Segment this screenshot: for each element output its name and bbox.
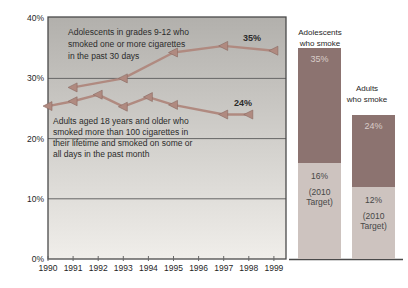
- x-tick-label: 1992: [89, 263, 108, 273]
- adults-bar-target-segment: 12% (2010 Target): [352, 187, 395, 259]
- adults-bar-caption: Adults who smoke: [331, 83, 403, 105]
- note-line: Adults aged 18 years and older who: [53, 116, 192, 127]
- adolescents-bar: 35% 16% (2010 Target): [298, 48, 341, 259]
- adolescents-bar-caption: Adolescents who smoke: [284, 27, 356, 49]
- adults-target-value: 12%: [352, 195, 395, 205]
- adolescents-line-end-label: 35%: [243, 33, 261, 43]
- x-tick-label: 1996: [189, 263, 208, 273]
- note-line: in the past 30 days: [68, 50, 189, 62]
- y-tick-label: 40%: [27, 13, 44, 23]
- adolescents-target-note: (2010 Target): [298, 187, 341, 207]
- caption-line: Adolescents: [284, 27, 356, 38]
- x-tick-label: 1993: [114, 263, 133, 273]
- x-tick-label: 1997: [214, 263, 233, 273]
- adults-bar-current-segment: 24%: [352, 115, 395, 187]
- note-line: all days in the past month: [53, 149, 192, 160]
- adolescents-bar-current-segment: 35%: [298, 48, 341, 162]
- caption-line: Adults: [331, 83, 403, 94]
- x-tick-label: 1999: [264, 263, 283, 273]
- adolescents-bar-target-segment: 16% (2010 Target): [298, 163, 341, 259]
- adults-series-note: Adults aged 18 years and older who smoke…: [53, 116, 192, 160]
- note-line: smoked one or more cigarettes: [68, 38, 189, 50]
- y-tick-label: 30%: [27, 73, 44, 83]
- x-tick-label: 1998: [239, 263, 258, 273]
- caption-line: who smoke: [331, 94, 403, 105]
- adolescents-series-note: Adolescents in grades 9-12 who smoked on…: [68, 26, 189, 62]
- x-tick-label: 1990: [39, 263, 58, 273]
- adolescents-bar-value: 35%: [298, 48, 341, 64]
- x-tick-label: 1995: [164, 263, 183, 273]
- adults-line-end-label: 24%: [234, 98, 252, 108]
- smoking-trends-figure: 1990199119921993199419951996199719981999…: [0, 0, 408, 288]
- y-tick-label: 10%: [27, 194, 44, 204]
- adults-target-note: (2010 Target): [352, 211, 395, 231]
- note-line: smoked more than 100 cigarettes in: [53, 127, 192, 138]
- y-tick-label: 0%: [32, 254, 45, 264]
- adults-bar: 24% 12% (2010 Target): [352, 115, 395, 259]
- adults-bar-value: 24%: [352, 115, 395, 131]
- y-tick-label: 20%: [27, 134, 44, 144]
- note-line: Adolescents in grades 9-12 who: [68, 26, 189, 38]
- x-tick-label: 1991: [64, 263, 83, 273]
- x-tick-label: 1994: [139, 263, 158, 273]
- adolescents-target-value: 16%: [298, 171, 341, 181]
- note-line: their lifetime and smoked on some or: [53, 138, 192, 149]
